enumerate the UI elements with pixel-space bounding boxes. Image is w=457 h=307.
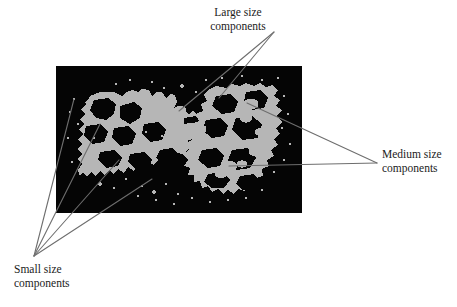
callout-medium-size: Medium size components (382, 148, 457, 175)
callout-small-line2: components (14, 277, 94, 291)
callout-large-size: Large size components (201, 6, 275, 33)
callout-large-line2: components (201, 20, 275, 34)
callout-medium-line1: Medium size (382, 148, 457, 162)
segmented-binary-image (56, 66, 302, 213)
callout-medium-line2: components (382, 162, 457, 176)
callout-small-size: Small size components (14, 263, 94, 290)
binary-image-svg (56, 66, 302, 213)
callout-small-line1: Small size (14, 263, 94, 277)
callout-large-line1: Large size (201, 6, 275, 20)
figure-annotated-binary-image: Large size components Medium size compon… (0, 0, 457, 307)
